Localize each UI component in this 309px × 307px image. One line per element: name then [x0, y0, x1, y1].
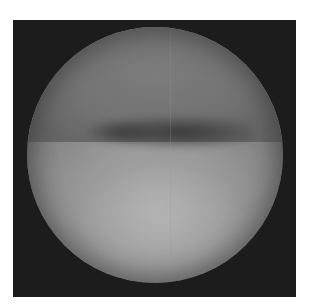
circular-view — [27, 27, 283, 283]
image-frame — [13, 20, 296, 297]
vignette-edge — [27, 27, 283, 283]
